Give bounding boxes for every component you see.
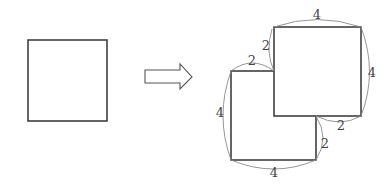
original-square: [28, 40, 107, 121]
label-lower-step-vertical: 2: [321, 136, 329, 151]
label-right: 4: [368, 65, 376, 80]
label-top: 4: [313, 7, 321, 22]
right-arrow-icon: [145, 64, 192, 89]
upper-square: [274, 27, 361, 116]
diagram-canvas: 4 4 2 2 4 2 2 4: [0, 0, 392, 192]
label-left: 4: [216, 105, 224, 120]
label-bottom: 4: [270, 165, 278, 180]
label-upper-step-horizontal: 2: [248, 53, 256, 68]
diagram-svg: 4 4 2 2 4 2 2 4: [0, 0, 392, 192]
dimension-arc-left: [223, 71, 231, 160]
label-lower-step-horizontal: 2: [337, 118, 345, 133]
label-upper-step-vertical: 2: [262, 38, 270, 53]
